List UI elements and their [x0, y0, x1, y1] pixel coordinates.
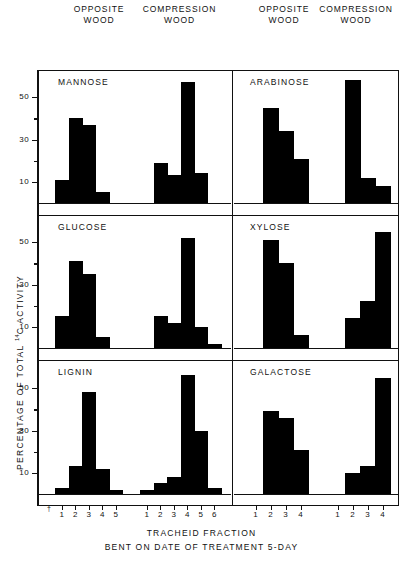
x-axis-tick-label: 4	[378, 510, 388, 519]
y-axis-title: PERCENTAGE OF TOTAL 14C ACTIVITY	[14, 275, 25, 470]
y-axis-tick-label: 30	[11, 426, 29, 435]
bar	[194, 173, 208, 203]
bar	[293, 335, 309, 348]
x-axis-caption-line-1: TRACHEID FRACTION	[0, 528, 403, 538]
panel-title-xylose: XYLOSE	[250, 222, 291, 232]
bar	[69, 118, 83, 203]
panel-title-mannose: MANNOSE	[58, 77, 109, 87]
x-axis-tick-label: 4	[296, 510, 306, 519]
y-axis-tick	[32, 388, 37, 389]
panel-title-glucose: GLUCOSE	[58, 222, 107, 232]
y-axis-tick	[32, 285, 37, 286]
x-axis-tick-label: 1	[251, 510, 261, 519]
bar	[345, 80, 361, 203]
header-line-1: OPPOSITE	[74, 4, 125, 14]
y-axis-tick	[34, 263, 38, 264]
bar	[167, 477, 181, 494]
y-axis-tick	[32, 182, 37, 183]
bar	[278, 263, 294, 348]
panel-title-galactose: GALACTOSE	[250, 367, 312, 377]
y-axis-tick	[32, 473, 37, 474]
bar	[82, 274, 96, 348]
x-axis-tick-label: 2	[70, 510, 80, 519]
bar	[140, 490, 154, 494]
bar	[278, 131, 294, 203]
bar	[263, 240, 279, 348]
y-axis-tick	[32, 97, 37, 98]
bar	[181, 238, 195, 348]
y-axis-tick-label: 30	[11, 135, 29, 144]
header-line-1: COMPRESSION	[143, 4, 217, 14]
bar	[208, 344, 222, 348]
dagger-symbol: †	[47, 505, 51, 512]
x-axis-tick-label: 4	[97, 510, 107, 519]
x-axis-tick-label: 3	[169, 510, 179, 519]
y-axis-tick-label: 50	[11, 92, 29, 101]
y-axis-tick-label: 50	[11, 237, 29, 246]
x-axis-tick-label: 6	[209, 510, 219, 519]
bar	[263, 108, 279, 203]
vertical-divider	[232, 70, 233, 506]
bar	[293, 450, 309, 494]
bar	[96, 469, 110, 494]
panel-baseline	[39, 203, 231, 204]
bar	[360, 466, 376, 494]
header-line-1: OPPOSITE	[259, 4, 310, 14]
bar	[360, 178, 376, 203]
y-axis-tick-label: 10	[11, 322, 29, 331]
x-axis-tick-label: 4	[182, 510, 192, 519]
x-axis-tick-label: 2	[155, 510, 165, 519]
bar	[154, 483, 168, 494]
y-axis-spine	[37, 70, 39, 506]
bar	[194, 327, 208, 348]
column-header-compression-wood-left: COMPRESSION WOOD	[122, 4, 237, 26]
bar	[109, 490, 123, 494]
bar	[55, 316, 69, 348]
panel-baseline	[39, 348, 231, 349]
figure-root: OPPOSITE WOOD COMPRESSION WOOD OPPOSITE …	[0, 0, 403, 561]
x-axis-tick-label: 2	[266, 510, 276, 519]
bar	[293, 159, 309, 203]
bar	[167, 175, 181, 203]
bar	[82, 125, 96, 203]
bar	[69, 466, 83, 494]
x-axis-tick-label: 3	[363, 510, 373, 519]
bar	[208, 488, 222, 494]
bar	[96, 192, 110, 203]
x-axis-tick-label: 3	[84, 510, 94, 519]
y-axis-tick	[32, 327, 37, 328]
header-line-1: COMPRESSION	[319, 4, 393, 14]
panel-title-lignin: LIGNIN	[58, 367, 93, 377]
bar	[55, 180, 69, 203]
y-axis-tick-label: 30	[11, 280, 29, 289]
horizontal-divider-1	[38, 215, 399, 216]
panel-title-arabinose: ARABINOSE	[250, 77, 310, 87]
x-axis-tick-label: 2	[348, 510, 358, 519]
y-axis-tick-label: 10	[11, 468, 29, 477]
header-line-2: WOOD	[310, 15, 402, 26]
x-axis-tick-label: 1	[57, 510, 67, 519]
bar	[69, 261, 83, 348]
bar	[263, 411, 279, 494]
x-axis-tick-label: 1	[333, 510, 343, 519]
bar	[345, 318, 361, 348]
bar	[360, 301, 376, 348]
bar	[82, 392, 96, 494]
bar	[96, 337, 110, 348]
horizontal-divider-2	[38, 360, 399, 361]
header-line-2: WOOD	[122, 15, 237, 26]
panel-baseline	[234, 203, 398, 204]
x-axis-caption-line-2: BENT ON DATE OF TREATMENT 5-DAY	[0, 542, 403, 552]
bar	[375, 378, 391, 494]
bar	[167, 323, 181, 348]
y-axis-title-superscript: 14	[14, 334, 20, 341]
y-axis-tick-label: 50	[11, 383, 29, 392]
x-axis-tick-label: 3	[281, 510, 291, 519]
column-header-compression-wood-right: COMPRESSION WOOD	[310, 4, 402, 26]
bar	[154, 316, 168, 348]
bar	[345, 473, 361, 494]
bar	[194, 431, 208, 495]
y-axis-tick	[34, 118, 38, 119]
panel-baseline	[39, 494, 231, 495]
y-axis-tick	[34, 161, 38, 162]
